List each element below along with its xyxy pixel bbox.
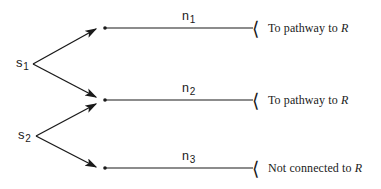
edge-subscript-n1: 1 <box>190 14 196 25</box>
destination-text-n2: To pathway to <box>268 93 341 107</box>
angle-bracket-icon-n2: ⟨ <box>252 91 259 110</box>
angle-bracket-icon-n1: ⟨ <box>252 19 259 38</box>
node-dot-n2 <box>103 98 107 102</box>
arrow-s1-to-n1 <box>33 29 96 64</box>
pathway-line-n2 <box>103 98 253 102</box>
destination-text-n3: Not connected to <box>268 161 355 175</box>
source-label-s2: s2 <box>18 128 31 144</box>
destination-label-n3: Not connected to R <box>268 162 362 174</box>
source-subscript-s1: 1 <box>23 61 29 72</box>
edge-label-n3: n3 <box>182 150 195 165</box>
edge-label-n1: n1 <box>182 10 195 25</box>
edge-base-n2: n <box>182 81 189 95</box>
source-base-s2: s <box>18 127 25 142</box>
destination-symbol-n1: R <box>341 21 348 35</box>
node-dot-n1 <box>103 26 107 30</box>
destination-label-n2: To pathway to R <box>268 94 348 106</box>
arrow-s2-to-n2 <box>36 104 96 136</box>
edge-base-n1: n <box>182 9 189 23</box>
branching-diagram: s1 s2 n1 n2 n3 ⟨ ⟨ ⟨ To pathway to R To … <box>0 0 381 189</box>
edge-label-n2: n2 <box>182 82 195 97</box>
pathway-line-n3 <box>103 166 253 170</box>
source-base-s1: s <box>16 55 23 70</box>
destination-text-n1: To pathway to <box>268 21 341 35</box>
source-label-s1: s1 <box>16 56 29 72</box>
destination-label-n1: To pathway to R <box>268 22 348 34</box>
destination-symbol-n2: R <box>341 93 348 107</box>
edge-base-n3: n <box>182 149 189 163</box>
edge-subscript-n3: 3 <box>190 154 196 165</box>
angle-bracket-icon-n3: ⟨ <box>252 159 259 178</box>
edge-subscript-n2: 2 <box>190 86 196 97</box>
node-dot-n3 <box>103 166 107 170</box>
pathway-line-n1 <box>103 26 253 30</box>
destination-symbol-n3: R <box>355 161 362 175</box>
arrow-s2-to-n3 <box>36 136 96 167</box>
arrow-s1-to-n2 <box>33 64 96 97</box>
source-subscript-s2: 2 <box>25 133 31 144</box>
